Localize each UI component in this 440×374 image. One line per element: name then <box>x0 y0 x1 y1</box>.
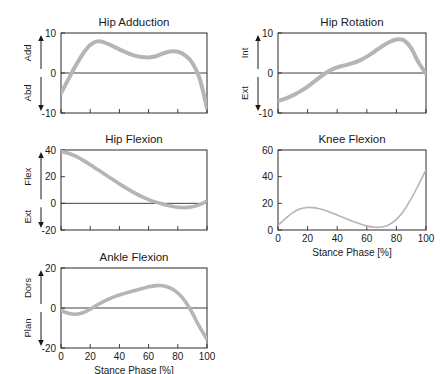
plot-panel-hip-flexion: Hip Flexion-2002040FlexExt <box>6 130 214 242</box>
data-curve-knee-flexion <box>278 170 426 227</box>
direction-label-negative: Abd <box>22 85 33 102</box>
y-tick-label: 20 <box>45 263 57 274</box>
y-tick-label: 10 <box>45 28 57 39</box>
x-tick-label: 100 <box>199 351 216 362</box>
x-axis-label: Stance Phase [%] <box>312 247 392 258</box>
y-tick-label: 0 <box>267 68 273 79</box>
plot-title: Knee Flexion <box>318 133 385 145</box>
y-tick-label: -10 <box>42 108 57 119</box>
x-tick-label: 60 <box>361 233 373 244</box>
y-tick-label: 0 <box>50 68 56 79</box>
x-tick-label: 40 <box>332 233 344 244</box>
y-tick-label: 10 <box>262 28 274 39</box>
x-tick-label: 0 <box>58 351 64 362</box>
plot-panel-hip-adduction: Hip Adduction-10010AddAbd <box>6 12 214 130</box>
y-tick-label: 40 <box>45 145 57 156</box>
x-tick-label: 20 <box>302 233 314 244</box>
y-tick-label: 60 <box>262 145 274 156</box>
y-tick-label: 20 <box>262 198 274 209</box>
direction-label-positive: Dors <box>22 278 33 298</box>
y-tick-label: 0 <box>50 198 56 209</box>
x-tick-label: 40 <box>114 351 126 362</box>
direction-label-negative: Plan <box>22 318 33 337</box>
arrow-up-head <box>38 35 44 41</box>
plot-title: Hip Adduction <box>99 16 170 28</box>
kinematics-figure: Hip Adduction-10010AddAbdHip Rotation-10… <box>0 0 440 374</box>
direction-label-positive: Int <box>239 47 250 58</box>
y-tick-label: -20 <box>42 225 57 236</box>
arrow-up-head <box>38 152 44 158</box>
arrow-up-head <box>255 35 261 41</box>
y-tick-label: 40 <box>262 171 274 182</box>
x-tick-label: 60 <box>143 351 155 362</box>
data-curve-hip-adduction <box>61 41 207 108</box>
plot-panel-hip-rotation: Hip Rotation-10010IntExt <box>222 12 434 130</box>
x-tick-label: 0 <box>275 233 281 244</box>
plot-panel-ankle-flexion: Ankle Flexion-20020020406080100Stance Ph… <box>6 248 214 372</box>
x-tick-label: 80 <box>391 233 403 244</box>
plot-title: Hip Flexion <box>105 133 163 145</box>
direction-label-negative: Ext <box>22 209 33 223</box>
y-tick-label: 20 <box>45 171 57 182</box>
direction-label-positive: Flex <box>22 167 33 185</box>
x-axis-label: Stance Phase [%] <box>94 365 174 374</box>
x-tick-label: 20 <box>85 351 97 362</box>
plot-title: Hip Rotation <box>320 16 383 28</box>
y-tick-label: 0 <box>267 225 273 236</box>
direction-label-negative: Ext <box>239 86 250 100</box>
data-curve-ankle-flexion <box>61 285 207 339</box>
x-tick-label: 100 <box>418 233 435 244</box>
data-curve-hip-flexion <box>61 152 207 208</box>
plot-panel-knee-flexion: Knee Flexion0204060020406080100Stance Ph… <box>222 130 434 254</box>
y-tick-label: -10 <box>259 108 274 119</box>
data-curve-hip-rotation <box>278 39 426 101</box>
plot-title: Ankle Flexion <box>99 251 168 263</box>
arrow-up-head <box>38 270 44 276</box>
y-tick-label: -20 <box>42 343 57 354</box>
x-tick-label: 80 <box>172 351 184 362</box>
y-tick-label: 0 <box>50 303 56 314</box>
axes-frame <box>278 150 426 230</box>
direction-label-positive: Add <box>22 45 33 62</box>
